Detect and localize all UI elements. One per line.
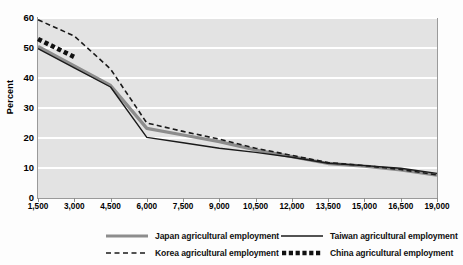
legend-item-japan: Japan agricultural employment [106,229,279,242]
x-axis-tick-label: 12,000 [279,203,304,211]
x-axis-tick-label: 16,500 [388,203,413,211]
legend-item-korea: Korea agricultural employment [106,246,279,259]
legend-label-china: China agricultural employment [330,248,453,258]
y-axis-tick-label: 60 [14,13,34,23]
y-axis-tick-label: 50 [14,43,34,53]
y-axis-tick-label: 10 [14,163,34,173]
legend-item-china: China agricultural employment [281,246,453,259]
legend-label-taiwan: Taiwan agricultural employment [330,231,458,241]
x-axis-tick-label: 1,500 [28,203,49,211]
x-axis-tick-label: 4,500 [100,203,121,211]
legend-label-japan: Japan agricultural employment [155,231,279,241]
x-axis-tick-label: 6,000 [137,203,158,211]
legend-swatch-japan [106,230,148,242]
x-axis-tick-label: 13,500 [316,203,341,211]
x-axis-tick-labels: 1,5003,0004,5006,0007,5009,00010,50012,0… [0,203,463,217]
x-axis-tick-label: 3,000 [64,203,85,211]
y-axis-tick-label: 40 [14,73,34,83]
chart-legend: Japan agricultural employment Korea agri… [0,228,463,262]
chart-figure: Percent 6050403020100 1,5003,0004,5006,0… [0,0,463,265]
y-axis-tick-label: 20 [14,133,34,143]
x-axis-line [37,198,438,199]
legend-item-taiwan: Taiwan agricultural employment [281,229,458,242]
series-lines [38,18,437,198]
legend-swatch-china [281,247,323,259]
y-axis-tick-label: 30 [14,103,34,113]
legend-swatch-korea [106,247,148,259]
series-line-taiwan [38,49,437,174]
x-axis-tick-label: 7,500 [173,203,194,211]
series-line-japan [38,47,437,176]
y-axis-tick-labels: 6050403020100 [12,0,34,265]
legend-swatch-taiwan [281,230,323,242]
legend-label-korea: Korea agricultural employment [155,248,279,258]
plot-area [38,18,438,198]
series-line-korea [38,20,437,175]
x-axis-tick-label: 10,500 [243,203,268,211]
x-axis-tick-label: 9,000 [209,203,230,211]
x-axis-tick-label: 15,000 [352,203,377,211]
x-axis-tick-label: 19,000 [424,203,449,211]
